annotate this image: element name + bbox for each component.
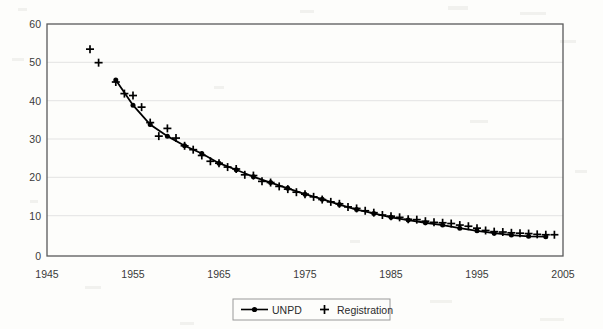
y-tick-20: 20 — [29, 171, 41, 183]
x-tick-1975: 1975 — [293, 268, 317, 280]
x-tick-1995: 1995 — [465, 268, 489, 280]
x-tick-1945: 1945 — [35, 268, 59, 280]
unpd-data-point — [165, 134, 170, 139]
x-tick-1965: 1965 — [207, 268, 231, 280]
chart-svg: 60 50 40 30 20 10 0 1945 1955 1965 1975 … — [0, 0, 603, 329]
y-tick-50: 50 — [29, 56, 41, 68]
chart-figure: 60 50 40 30 20 10 0 1945 1955 1965 1975 … — [0, 0, 603, 329]
legend-label-registration: Registration — [337, 304, 393, 316]
x-tick-2005: 2005 — [551, 268, 575, 280]
x-tick-1985: 1985 — [379, 268, 403, 280]
y-tick-60: 60 — [29, 18, 41, 30]
unpd-data-point — [131, 103, 136, 108]
y-tick-40: 40 — [29, 95, 41, 107]
y-tick-0: 0 — [35, 250, 41, 262]
y-tick-10: 10 — [29, 210, 41, 222]
y-tick-30: 30 — [29, 133, 41, 145]
x-tick-1955: 1955 — [121, 268, 145, 280]
chart-legend: UNPD Registration — [233, 299, 393, 320]
legend-label-unpd: UNPD — [272, 304, 302, 316]
